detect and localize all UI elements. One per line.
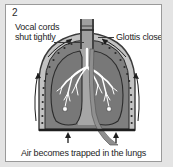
leader-line-vocal-cords xyxy=(54,42,84,43)
figure-panel-2: 2 xyxy=(0,0,173,167)
leader-line-glottis xyxy=(98,37,114,38)
label-vocal-cords-line1: Vocal cords xyxy=(15,22,59,32)
panel-frame: 2 xyxy=(5,4,162,162)
alveolus-left xyxy=(63,107,68,112)
diaphragm-arrowheads xyxy=(65,132,119,138)
label-glottis-closes: Glottis closes xyxy=(116,32,162,42)
label-vocal-cords-line2: shut tightly xyxy=(15,32,59,42)
label-vocal-cords: Vocal cords shut tightly xyxy=(15,22,59,42)
alveolus-right xyxy=(107,107,112,112)
trachea xyxy=(80,19,94,49)
figure-caption: Air becomes trapped in the lungs xyxy=(6,148,161,158)
